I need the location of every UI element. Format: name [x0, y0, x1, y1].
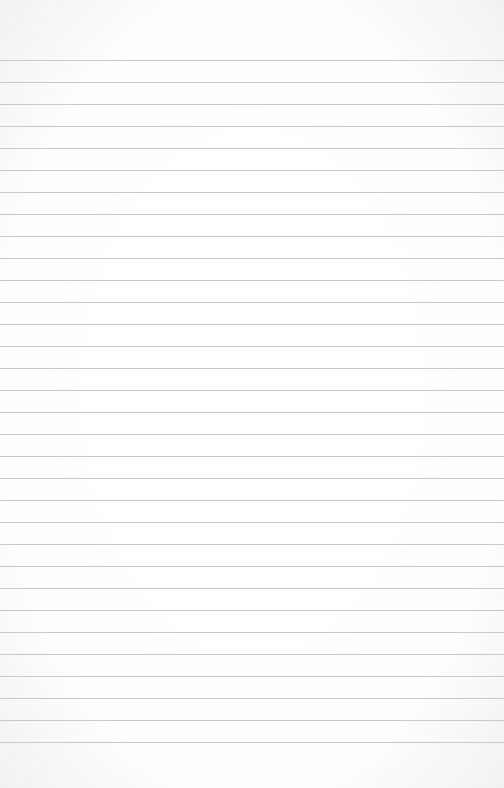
- ruled-line: [0, 82, 504, 83]
- ruled-line: [0, 434, 504, 435]
- ruled-line: [0, 720, 504, 721]
- ruled-line: [0, 412, 504, 413]
- ruled-line: [0, 610, 504, 611]
- ruled-line: [0, 346, 504, 347]
- ruled-line: [0, 280, 504, 281]
- ruled-line: [0, 236, 504, 237]
- ruled-line: [0, 588, 504, 589]
- ruled-line: [0, 742, 504, 743]
- ruled-line: [0, 500, 504, 501]
- ruled-line: [0, 478, 504, 479]
- ruled-line: [0, 60, 504, 61]
- ruled-line: [0, 192, 504, 193]
- ruled-line: [0, 698, 504, 699]
- ruled-line: [0, 214, 504, 215]
- ruled-line: [0, 148, 504, 149]
- ruled-paper: [0, 0, 504, 788]
- ruled-line: [0, 566, 504, 567]
- ruled-line: [0, 390, 504, 391]
- ruled-line: [0, 522, 504, 523]
- ruled-line: [0, 676, 504, 677]
- ruled-line: [0, 324, 504, 325]
- ruled-line: [0, 302, 504, 303]
- ruled-line: [0, 544, 504, 545]
- ruled-line: [0, 654, 504, 655]
- ruled-line: [0, 456, 504, 457]
- ruled-line: [0, 104, 504, 105]
- ruled-line: [0, 368, 504, 369]
- ruled-line: [0, 170, 504, 171]
- ruled-line: [0, 126, 504, 127]
- ruled-line: [0, 258, 504, 259]
- ruled-line: [0, 632, 504, 633]
